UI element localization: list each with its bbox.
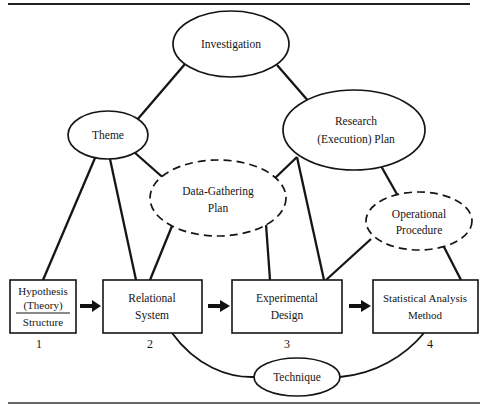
statistical-analysis-box	[373, 280, 478, 333]
arrow-relational-system-to-experimental-design	[208, 300, 230, 312]
link-research-plan-experimental-design	[273, 157, 297, 180]
node-statistical-analysis[interactable]: Statistical Analysis Method 4	[373, 280, 478, 351]
experimental-design-line2: Design	[271, 309, 304, 322]
data-gathering-plan-label-line2: Plan	[208, 202, 229, 214]
statistical-analysis-step-number: 4	[427, 337, 433, 351]
research-plan-ellipse	[283, 90, 425, 170]
experimental-design-step-number: 3	[284, 337, 290, 351]
investigation-label: Investigation	[201, 38, 261, 51]
link-research-plan-experimental-design-lower	[297, 157, 324, 280]
research-plan-label-line2: (Execution) Plan	[317, 133, 395, 146]
experimental-design-box	[232, 280, 342, 333]
theme-label: Theme	[92, 129, 124, 141]
link-technique-statistical-analysis	[340, 333, 424, 377]
flow-diagram: Investigation Theme Research (Execution)…	[0, 0, 485, 415]
node-investigation[interactable]: Investigation	[173, 11, 289, 77]
node-hypothesis[interactable]: Hypothesis (Theory) Structure 1	[10, 280, 76, 351]
arrow-2-3-shaft	[208, 304, 222, 308]
link-theme-investigation	[137, 64, 185, 120]
arrow-2-3-head	[220, 300, 230, 312]
node-theme[interactable]: Theme	[68, 111, 148, 159]
operational-procedure-label-line2: Procedure	[396, 224, 443, 236]
link-theme-hypothesis	[43, 158, 95, 280]
link-theme-relational-system	[110, 159, 136, 280]
node-technique[interactable]: Technique	[254, 358, 340, 396]
relational-system-box	[103, 280, 202, 333]
hypothesis-numerator-line2: (Theory)	[23, 299, 62, 312]
link-data-gathering-plan-experimental-design	[266, 224, 270, 280]
arrow-3-4-head	[361, 300, 371, 312]
statistical-analysis-line1: Statistical Analysis	[383, 292, 467, 304]
data-gathering-plan-ellipse	[150, 160, 286, 236]
arrow-experimental-design-to-statistical-analysis	[349, 300, 371, 312]
relational-system-step-number: 2	[147, 337, 153, 351]
statistical-analysis-line2: Method	[408, 309, 443, 321]
link-operational-procedure-experimental-design	[326, 239, 371, 280]
hypothesis-step-number: 1	[36, 337, 42, 351]
figure-canvas: Investigation Theme Research (Execution)…	[0, 0, 485, 415]
arrow-1-2-head	[92, 300, 101, 312]
node-operational-procedure[interactable]: Operational Procedure	[366, 192, 472, 250]
research-plan-label-line1: Research	[335, 115, 377, 127]
relational-system-line1: Relational	[128, 292, 175, 304]
link-research-plan-operational-procedure	[381, 166, 398, 196]
operational-procedure-label-line1: Operational	[392, 208, 446, 221]
data-gathering-plan-label-line1: Data-Gathering	[182, 185, 254, 198]
node-experimental-design[interactable]: Experimental Design 3	[232, 280, 342, 351]
link-investigation-research-plan	[277, 65, 310, 103]
operational-procedure-ellipse	[366, 192, 472, 250]
arrow-3-4-shaft	[349, 304, 363, 308]
hypothesis-denominator: Structure	[23, 316, 63, 328]
link-data-gathering-plan-relational-system	[150, 226, 172, 280]
relational-system-line2: System	[135, 309, 169, 322]
arrow-1-2-shaft	[80, 304, 94, 308]
node-research-plan[interactable]: Research (Execution) Plan	[283, 90, 425, 170]
technique-label: Technique	[273, 371, 321, 384]
experimental-design-line1: Experimental	[256, 292, 318, 305]
link-operational-procedure-statistical-analysis	[443, 245, 461, 280]
node-data-gathering-plan[interactable]: Data-Gathering Plan	[150, 160, 286, 236]
hypothesis-numerator-line1: Hypothesis	[18, 285, 68, 297]
node-relational-system[interactable]: Relational System 2	[103, 280, 202, 351]
link-relational-system-technique	[172, 333, 255, 377]
arrow-hypothesis-to-relational-system	[80, 300, 101, 312]
